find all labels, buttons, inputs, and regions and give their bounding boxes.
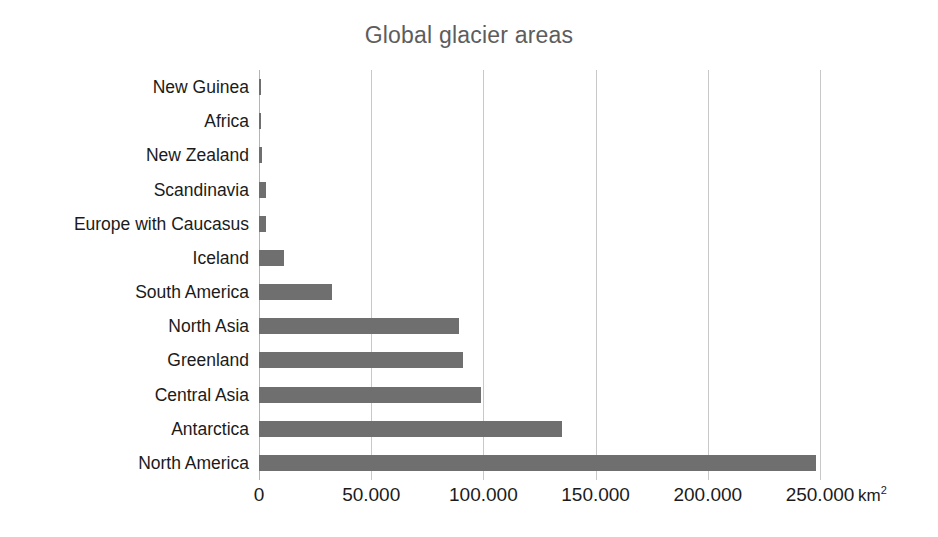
bar[interactable] <box>259 147 262 163</box>
bar-row <box>259 412 820 446</box>
bar[interactable] <box>259 79 261 95</box>
bar[interactable] <box>259 284 332 300</box>
category-label: New Guinea <box>0 70 249 104</box>
x-tick-label: 100.000 <box>449 484 518 506</box>
bar[interactable] <box>259 421 562 437</box>
bar-row <box>259 309 820 343</box>
category-label: Africa <box>0 104 249 138</box>
bar-row <box>259 241 820 275</box>
x-tick-label: 200.000 <box>673 484 742 506</box>
y-axis-category-labels: New GuineaAfricaNew ZealandScandinaviaEu… <box>0 70 249 480</box>
category-label: North Asia <box>0 309 249 343</box>
bar[interactable] <box>259 182 266 198</box>
bar-row <box>259 138 820 172</box>
x-tick-label: 50.000 <box>342 484 400 506</box>
category-label: Europe with Caucasus <box>0 207 249 241</box>
glacier-area-bar-chart: Global glacier areas New GuineaAfricaNew… <box>0 0 938 537</box>
bars-layer <box>259 70 820 480</box>
bar-row <box>259 207 820 241</box>
category-label: South America <box>0 275 249 309</box>
bar-row <box>259 343 820 377</box>
bar[interactable] <box>259 113 261 129</box>
category-label: New Zealand <box>0 138 249 172</box>
x-tick-label: 0 <box>254 484 265 506</box>
bar-row <box>259 378 820 412</box>
bar-row <box>259 446 820 480</box>
plot-area <box>259 70 820 480</box>
category-label: Antarctica <box>0 412 249 446</box>
x-axis-tick-labels: km2 050.000100.000150.000200.000250.000 <box>0 484 938 514</box>
bar-row <box>259 70 820 104</box>
bar-row <box>259 173 820 207</box>
bar-row <box>259 275 820 309</box>
x-tick-label: 150.000 <box>561 484 630 506</box>
category-label: North America <box>0 446 249 480</box>
bar-row <box>259 104 820 138</box>
bar[interactable] <box>259 387 481 403</box>
bar[interactable] <box>259 250 284 266</box>
x-tick-label: 250.000 <box>786 484 855 506</box>
category-label: Scandinavia <box>0 173 249 207</box>
chart-title: Global glacier areas <box>0 22 938 49</box>
gridline-250000 <box>820 70 821 480</box>
category-label: Iceland <box>0 241 249 275</box>
category-label: Central Asia <box>0 378 249 412</box>
bar[interactable] <box>259 352 463 368</box>
bar[interactable] <box>259 455 816 471</box>
x-axis-unit-label: km2 <box>858 486 887 506</box>
bar[interactable] <box>259 318 459 334</box>
category-label: Greenland <box>0 343 249 377</box>
bar[interactable] <box>259 216 266 232</box>
